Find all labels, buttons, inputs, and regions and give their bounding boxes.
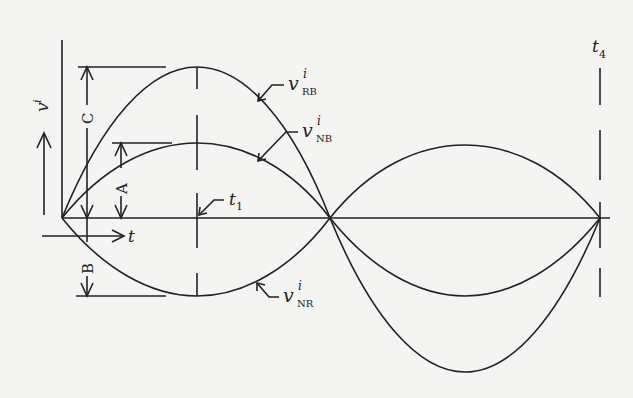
svg-text:t: t	[229, 189, 236, 209]
x-axis-label: t	[128, 226, 135, 246]
t1-leader	[199, 200, 224, 215]
svg-text:RB: RB	[302, 86, 317, 97]
t4-label: t 4	[592, 36, 606, 61]
curve-v-nb	[62, 143, 600, 296]
nb-leader	[258, 132, 298, 161]
svg-text:i: i	[303, 67, 307, 81]
svg-text:i: i	[31, 99, 44, 103]
svg-text:t: t	[592, 36, 599, 56]
t1-label: t 1	[229, 189, 243, 213]
svg-text:v: v	[283, 284, 294, 306]
svg-text:v: v	[302, 119, 313, 141]
svg-text:v: v	[288, 72, 299, 94]
amplitude-label-a: A	[113, 183, 131, 195]
amplitude-label-b: B	[79, 263, 97, 274]
svg-text:1: 1	[236, 200, 243, 213]
amplitude-label-c: C	[79, 113, 97, 124]
svg-text:NR: NR	[297, 298, 314, 309]
svg-text:NB: NB	[316, 133, 332, 144]
rb-leader	[258, 85, 284, 101]
waveform-diagram: v i t C A B t 1 t 4 v i RB v i NB	[0, 0, 633, 398]
svg-text:i: i	[317, 114, 321, 128]
label-v-nr: v i NR	[283, 279, 314, 309]
label-v-nb: v i NB	[302, 114, 332, 144]
svg-text:4: 4	[599, 48, 606, 61]
label-v-rb: v i RB	[288, 67, 317, 97]
nr-leader	[257, 283, 279, 297]
svg-text:i: i	[298, 279, 302, 293]
y-axis-label: v i	[31, 99, 52, 112]
